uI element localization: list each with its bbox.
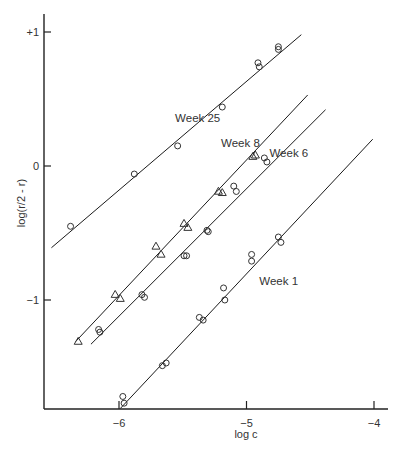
week-25-circle-marker — [256, 64, 262, 70]
week-25-circle-marker — [131, 171, 137, 177]
x-tick-label: −4 — [368, 417, 381, 429]
week-8-triangle-marker — [116, 294, 124, 301]
axes: +10−1−6−5−4log clog(r/2 - r) — [15, 14, 388, 440]
week-6-circle-marker — [205, 229, 211, 235]
week-6-label: Week 6 — [269, 147, 308, 159]
week-25-label: Week 25 — [175, 112, 220, 124]
week-1-circle-marker — [278, 239, 284, 245]
week-25-circle-marker — [175, 143, 181, 149]
week-1-label: Week 1 — [259, 275, 298, 287]
week-1-circle-marker — [249, 251, 255, 257]
week-25-circle-marker — [219, 104, 225, 110]
y-tick-label: +1 — [26, 26, 39, 38]
week-1-circle-marker — [249, 258, 255, 264]
week-1-circle-marker — [121, 400, 127, 406]
week-25-circle-marker — [68, 223, 74, 229]
week-1-circle-marker — [221, 285, 227, 291]
y-tick-label: −1 — [26, 294, 39, 306]
y-tick-label: 0 — [33, 160, 39, 172]
fit-lines — [51, 35, 372, 409]
chart: +10−1−6−5−4log clog(r/2 - r) Week 25Week… — [0, 0, 401, 454]
x-axis-title: log c — [234, 428, 258, 440]
week-6-circle-marker — [233, 188, 239, 194]
week-1-circle-marker — [120, 393, 126, 399]
week-8-fit-line — [76, 95, 308, 342]
series-labels: Week 25Week 8Week 6Week 1 — [175, 112, 308, 287]
week-8-triangle-marker — [152, 242, 160, 249]
x-tick-label: −6 — [113, 417, 126, 429]
week-8-label: Week 8 — [221, 137, 260, 149]
data-markers — [68, 44, 284, 406]
week-25-circle-marker — [255, 60, 261, 66]
y-axis-title: log(r/2 - r) — [15, 179, 27, 227]
week-1-fit-line — [120, 139, 372, 408]
week-8-triangle-marker — [184, 223, 192, 230]
week-1-circle-marker — [222, 297, 228, 303]
